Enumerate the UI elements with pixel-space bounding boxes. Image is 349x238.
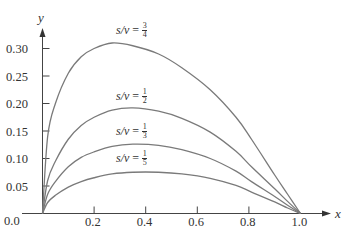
x-axis-arrow-icon — [322, 211, 331, 217]
y-tick-label: 0.20 — [6, 97, 28, 111]
curve-label-lhs: s/v — [116, 23, 129, 38]
curve-series-3 — [43, 172, 301, 213]
fraction-denominator: 2 — [143, 97, 147, 105]
curve-label-lhs: s/v — [116, 124, 129, 139]
x-tick-label: 0.2 — [85, 215, 101, 229]
equals-sign: = — [132, 124, 139, 139]
fraction-denominator: 5 — [143, 159, 147, 167]
x-tick-label: 0.4 — [137, 215, 153, 229]
x-tick-label: 0.8 — [240, 215, 256, 229]
fraction-denominator: 3 — [143, 132, 147, 140]
curve-label-lhs: s/v — [116, 151, 129, 166]
curve-label: s/v=15 — [116, 150, 147, 167]
fraction-numerator: 1 — [143, 150, 147, 158]
fraction: 15 — [142, 150, 147, 167]
fraction-numerator: 1 — [143, 123, 147, 131]
y-axis-arrow-icon — [40, 28, 46, 37]
y-tick-label: 0.05 — [6, 180, 28, 194]
x-axis-label: x — [334, 206, 341, 221]
curve-label: s/v=13 — [116, 123, 147, 140]
fraction: 34 — [142, 22, 147, 39]
curve-series-1 — [43, 108, 301, 214]
fraction: 13 — [142, 123, 147, 140]
y-tick-label: 0.15 — [6, 125, 28, 139]
equals-sign: = — [132, 89, 139, 104]
y-axis-label: y — [36, 10, 44, 25]
fraction-numerator: 1 — [143, 88, 147, 96]
fraction-denominator: 4 — [143, 31, 147, 39]
chart-plot: y x 0.00.050.100.150.200.250.30 0.20.40.… — [0, 0, 349, 238]
equals-sign: = — [132, 151, 139, 166]
curve-label: s/v=34 — [116, 22, 147, 39]
y-tick-label: 0.10 — [6, 152, 28, 166]
x-tick-label: 0.6 — [188, 215, 204, 229]
curve-label: s/v=12 — [116, 88, 147, 105]
y-tick-label: 0.25 — [6, 70, 28, 84]
x-tick-label: 1.0 — [292, 215, 308, 229]
curves — [43, 43, 301, 214]
y-tick-label: 0.30 — [6, 42, 28, 56]
equals-sign: = — [132, 23, 139, 38]
curve-label-lhs: s/v — [116, 89, 129, 104]
y-tick-label: 0.0 — [4, 214, 20, 228]
fraction-numerator: 3 — [143, 22, 147, 30]
x-ticks: 0.20.40.60.81.0 — [85, 207, 307, 230]
fraction: 12 — [142, 88, 147, 105]
